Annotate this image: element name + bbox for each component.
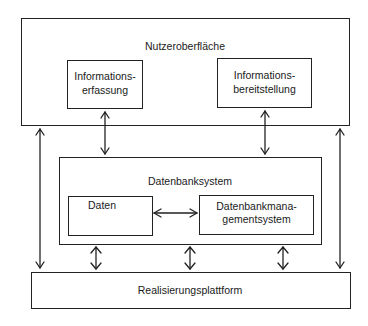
arrow-db-left-to-platform-icon — [91, 247, 101, 269]
connection-arrows — [0, 0, 368, 326]
arrow-ui-left-to-platform-icon — [36, 129, 44, 268]
arrow-provision-to-db-icon — [261, 111, 269, 154]
arrow-db-right-to-platform-icon — [278, 247, 288, 269]
arrow-data-to-dbms-icon — [154, 209, 197, 217]
arrow-ui-right-to-platform-icon — [336, 129, 344, 268]
arrow-db-center-to-platform-icon — [185, 247, 195, 269]
arrow-capture-to-db-icon — [101, 112, 109, 154]
